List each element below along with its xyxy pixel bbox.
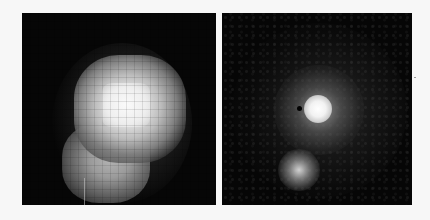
right-bright-nucleus xyxy=(304,95,332,123)
left-artifact-streak xyxy=(84,178,85,205)
right-dark-speck xyxy=(297,106,302,111)
left-bright-core xyxy=(102,83,150,127)
right-companion-source xyxy=(278,149,320,191)
left-image-panel xyxy=(22,13,216,205)
right-image-panel xyxy=(222,13,412,205)
edge-tick-mark xyxy=(414,77,416,78)
